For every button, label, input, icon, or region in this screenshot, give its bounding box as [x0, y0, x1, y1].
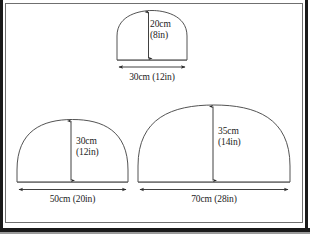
shape-large-dome [138, 105, 290, 182]
medium-dome-height-cm: 30cm [76, 136, 99, 147]
shape-medium-dome [17, 120, 128, 183]
figure-page: 20cm (8in) 30cm (12in) 30cm (12in) 50cm … [0, 0, 310, 236]
medium-dome-outline [17, 120, 128, 183]
medium-dome-height-label: 30cm (12in) [76, 136, 99, 158]
small-arch-height-in: (8in) [150, 30, 171, 41]
medium-dome-width-label: 50cm (20in) [17, 194, 128, 205]
large-dome-height-cm: 35cm [218, 126, 241, 137]
large-dome-outline [138, 105, 290, 182]
small-arch-height-label: 20cm (8in) [150, 19, 171, 41]
small-arch-height-cm: 20cm [150, 19, 171, 30]
medium-dome-height-in: (12in) [76, 147, 99, 158]
large-dome-height-label: 35cm (14in) [218, 126, 241, 148]
small-arch-width-label: 30cm (12in) [117, 72, 187, 83]
large-dome-width-label: 70cm (28in) [138, 194, 290, 205]
large-dome-height-in: (14in) [218, 137, 241, 148]
